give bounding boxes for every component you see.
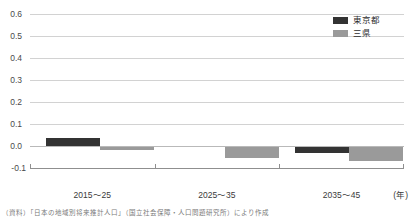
bar-groups (30, 14, 404, 188)
bar-tokyo-2015-25 (46, 138, 100, 146)
light-swatch-icon (333, 30, 348, 37)
y-axis-tick-label: 0.4 (0, 54, 22, 63)
y-axis-tick-label: 0.0 (0, 142, 22, 151)
dark-swatch-icon (333, 17, 348, 24)
x-axis-label-2015-25: 2015〜25 (30, 191, 155, 200)
source-footnote: （資料）「日本の地域別将来推計人口」（国立社会保障・人口問題研究所）により作成 (2, 209, 412, 217)
plot-area: 0.6 0.5 0.4 0.3 0.2 0.1 0.0 -0.1 (30, 14, 404, 188)
legend-item-tokyo: 東京都 (333, 14, 405, 27)
y-axis-tick-label: 0.3 (0, 76, 22, 85)
bar-sanken-2035-45 (349, 147, 403, 161)
bar-group-2015-25 (30, 14, 155, 188)
bar-group-2035-45 (279, 14, 404, 188)
chart-legend: 東京都 三県 (333, 14, 405, 40)
y-axis-tick-label: 0.2 (0, 98, 22, 107)
y-axis-tick-label: 0.5 (0, 32, 22, 41)
x-axis-label-2035-45: 2035〜45 (279, 191, 404, 200)
legend-item-sanken: 三県 (333, 27, 405, 40)
x-axis-tick-end (403, 164, 404, 169)
x-axis-tick-2 (279, 164, 280, 169)
y-axis-tick-label: -0.1 (0, 164, 26, 173)
x-axis-tick-start (30, 164, 31, 169)
legend-label-tokyo: 東京都 (353, 16, 380, 25)
x-axis-unit-label: (年) (393, 191, 408, 200)
bar-sanken-2025-35 (225, 147, 279, 158)
y-axis-tick-label: 0.1 (0, 120, 22, 129)
legend-label-sanken: 三県 (353, 29, 371, 38)
x-axis-tick-1 (155, 164, 156, 169)
bar-group-2025-35 (155, 14, 280, 188)
y-axis-tick-label: 0.6 (0, 10, 22, 19)
x-axis-label-2025-35: 2025〜35 (155, 191, 280, 200)
bar-sanken-2015-25 (100, 147, 154, 150)
bar-tokyo-2035-45 (295, 147, 349, 153)
chart-container: 0.6 0.5 0.4 0.3 0.2 0.1 0.0 -0.1 (0, 0, 412, 217)
